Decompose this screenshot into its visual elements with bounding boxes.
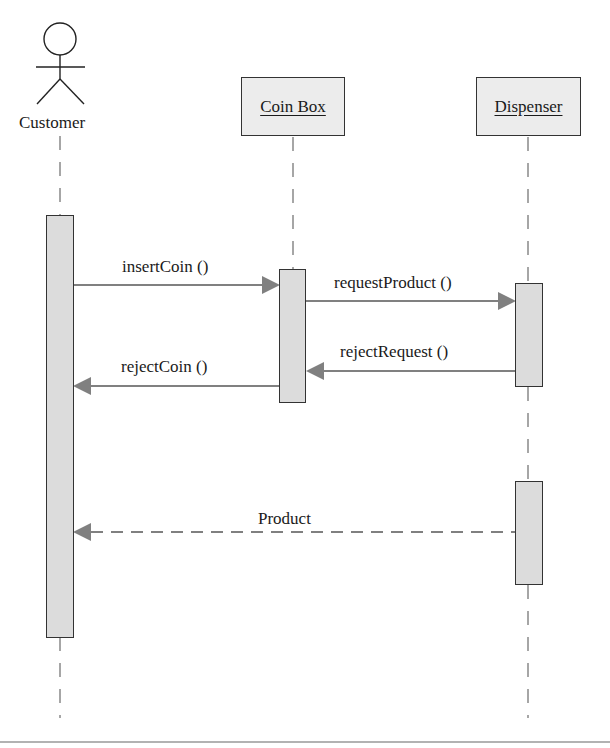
- rejectcoin-arrowhead-icon: [73, 377, 91, 395]
- product-arrowhead-icon: [73, 523, 91, 541]
- actor-stick-figure-icon: [36, 23, 85, 104]
- message-label-rejectcoin: rejectCoin (): [121, 358, 207, 375]
- object-label-coinbox: Coin Box: [260, 97, 326, 117]
- activation-bar-coinbox[interactable]: [279, 269, 306, 403]
- message-label-insertcoin: insertCoin (): [122, 258, 208, 275]
- activation-bar-dispenser-2[interactable]: [515, 481, 543, 585]
- object-label-dispenser: Dispenser: [495, 97, 563, 117]
- insertcoin-arrowhead-icon: [262, 276, 280, 294]
- requestproduct-arrowhead-icon: [498, 292, 516, 310]
- object-box-dispenser[interactable]: Dispenser: [476, 77, 581, 136]
- object-box-coinbox[interactable]: Coin Box: [241, 77, 345, 136]
- message-label-rejectrequest: rejectRequest (): [340, 343, 448, 360]
- activation-bar-dispenser-1[interactable]: [515, 283, 543, 387]
- activation-bar-customer[interactable]: [46, 215, 74, 638]
- actor-label-customer: Customer: [19, 114, 85, 131]
- message-label-product: Product: [258, 510, 311, 527]
- rejectrequest-arrowhead-icon: [306, 362, 324, 380]
- message-label-requestproduct: requestProduct (): [334, 274, 452, 291]
